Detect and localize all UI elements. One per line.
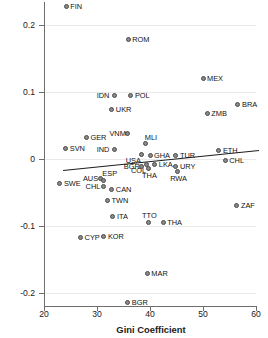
- data-point-label: ITA: [117, 212, 128, 221]
- data-point-label: BGR: [124, 162, 140, 171]
- data-point[interactable]: [234, 203, 239, 208]
- data-point-label: CAN: [116, 185, 132, 194]
- data-point[interactable]: [126, 37, 131, 42]
- data-point[interactable]: [145, 271, 150, 276]
- data-point-label: SVN: [70, 144, 85, 153]
- y-tick-label: -0.1: [5, 221, 35, 231]
- data-point-label: CYP: [85, 233, 100, 242]
- data-point[interactable]: [223, 158, 228, 163]
- data-point[interactable]: [109, 187, 114, 192]
- data-point-label: LKA: [159, 160, 173, 169]
- data-point[interactable]: [173, 164, 178, 169]
- data-point-label: IND: [97, 145, 110, 154]
- x-tick-label: 60: [244, 309, 268, 319]
- x-tick-label: 50: [191, 309, 215, 319]
- data-point-label: RWA: [170, 174, 187, 183]
- data-point-label: BRA: [242, 100, 257, 109]
- data-point-label: CHL: [86, 182, 101, 191]
- y-tick-label: 0.2: [5, 20, 35, 30]
- data-point-label: VNM: [109, 129, 125, 138]
- data-point[interactable]: [109, 107, 114, 112]
- data-point-label: TTO: [142, 211, 157, 220]
- data-point[interactable]: [101, 184, 106, 189]
- data-point[interactable]: [148, 153, 153, 158]
- data-point[interactable]: [112, 93, 117, 98]
- scatter-chart: Prob. (good health): migrant - non-migra…: [0, 0, 268, 338]
- data-point-label: TUR: [180, 151, 195, 160]
- data-point-label: ESP: [102, 169, 117, 178]
- data-point-label: URY: [180, 162, 195, 171]
- data-point-label: ROM: [132, 35, 149, 44]
- data-point[interactable]: [205, 111, 210, 116]
- data-point[interactable]: [173, 153, 178, 158]
- data-point[interactable]: [101, 234, 106, 239]
- data-point-label: MLI: [145, 133, 157, 142]
- data-point-label: IDN: [97, 91, 110, 100]
- data-point-label: CHL: [229, 156, 244, 165]
- data-point[interactable]: [216, 148, 221, 153]
- data-point[interactable]: [146, 220, 151, 225]
- data-point-label: BGR: [132, 298, 148, 307]
- y-tick-label: 0.1: [5, 87, 35, 97]
- data-point[interactable]: [112, 147, 117, 152]
- data-point[interactable]: [143, 141, 148, 146]
- data-point-label: ZMB: [211, 109, 227, 118]
- data-point-label: GER: [90, 133, 106, 142]
- data-point[interactable]: [78, 235, 83, 240]
- data-point-label: KOR: [108, 232, 124, 241]
- data-point[interactable]: [161, 220, 166, 225]
- data-point[interactable]: [201, 76, 206, 81]
- data-point-label: THA: [167, 218, 182, 227]
- data-point[interactable]: [105, 198, 110, 203]
- data-point-label: MEX: [207, 74, 223, 83]
- data-point-label: UKR: [116, 105, 132, 114]
- data-point-label: ZAF: [241, 201, 255, 210]
- data-point-label: ETH: [223, 146, 238, 155]
- data-point-label: TWN: [112, 196, 129, 205]
- data-point-label: THA: [142, 171, 157, 180]
- data-point-label: MAR: [151, 269, 167, 278]
- x-tick-label: 20: [32, 309, 56, 319]
- data-point[interactable]: [64, 4, 69, 9]
- data-point[interactable]: [84, 135, 89, 140]
- data-point-label: AUS: [83, 174, 98, 183]
- data-point[interactable]: [125, 300, 130, 305]
- data-point[interactable]: [63, 146, 68, 151]
- x-tick-label: 40: [138, 309, 162, 319]
- data-point-label: FIN: [70, 2, 82, 11]
- data-point[interactable]: [57, 181, 62, 186]
- x-axis-title: Gini Coefficient: [40, 324, 262, 335]
- data-point-label: GHA: [154, 151, 170, 160]
- data-point[interactable]: [235, 102, 240, 107]
- data-point[interactable]: [101, 178, 106, 183]
- y-tick-label: -0.2: [5, 288, 35, 298]
- data-point[interactable]: [152, 162, 157, 167]
- data-point-label: SWE: [64, 179, 81, 188]
- data-point-label: POL: [135, 91, 150, 100]
- data-point[interactable]: [128, 93, 133, 98]
- plot-area: FINROMMEXIDNPOLBRAUKRZMBVNMGERMLISVNINDE…: [44, 2, 256, 306]
- y-tick-label: 0: [5, 154, 35, 164]
- x-tick-label: 30: [85, 309, 109, 319]
- data-point[interactable]: [110, 214, 115, 219]
